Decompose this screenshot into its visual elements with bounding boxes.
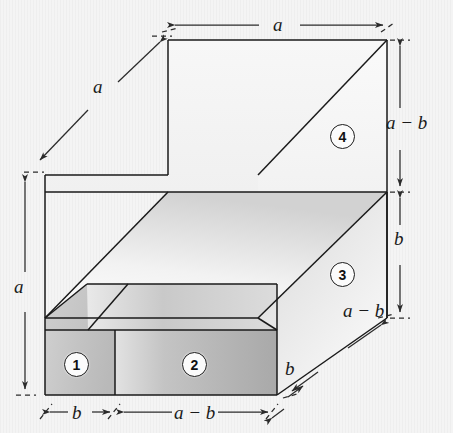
dim-diag-b-lower [272, 409, 284, 418]
dim-label-top-a: a [273, 14, 283, 36]
dim-label-bottom-b: b [72, 402, 82, 424]
dim-diag-b-upper [288, 386, 303, 397]
region-badge-4[interactable]: 4 [330, 124, 355, 149]
region-badge-1[interactable]: 1 [64, 352, 89, 377]
dim-label-left-a: a [14, 276, 24, 298]
dim-diag-a-line [118, 42, 160, 82]
dim-label-diagonal-a: a [93, 76, 103, 98]
slab-top-strip-right [87, 284, 277, 330]
dim-label-right-a-minus-b: a − b [386, 112, 427, 134]
dim-label-diagonal-a-minus-b: a − b [343, 300, 384, 322]
figure-container: a a a − b b a b a − b a − b b 1 2 3 4 [0, 0, 453, 433]
region-badge-3[interactable]: 3 [330, 262, 355, 287]
dim-label-bottom-a-minus-b: a − b [174, 402, 215, 424]
dim-label-right-b: b [394, 228, 404, 250]
dim-top-a-tick-left [162, 28, 178, 32]
region-badge-2[interactable]: 2 [182, 352, 207, 377]
dim-top-a-tick-right [381, 23, 394, 32]
dim-label-diagonal-b: b [285, 358, 295, 380]
dim-diag-a-line-2 [40, 110, 88, 160]
